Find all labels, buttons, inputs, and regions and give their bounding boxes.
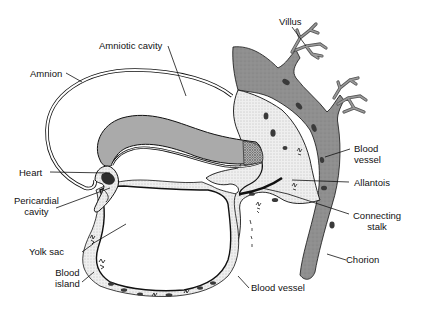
- label-villus: Villus: [279, 16, 302, 27]
- label-pericardial-line1: Pericardial: [14, 195, 59, 206]
- label-blood-island-line2: island: [55, 278, 80, 289]
- label-blood-vessel-chorion-line2: vessel: [354, 154, 381, 165]
- label-chorion: Chorion: [346, 254, 379, 265]
- label-pericardial-cavity: Pericardial cavity: [14, 195, 59, 217]
- label-yolk-sac: Yolk sac: [29, 246, 64, 257]
- label-blood-vessel-yolk-sac: Blood vessel: [251, 282, 305, 293]
- label-pericardial-line2: cavity: [24, 206, 48, 217]
- label-amniotic-cavity: Amniotic cavity: [99, 40, 162, 51]
- label-blood-vessel-chorion: Blood vessel: [354, 143, 381, 165]
- label-allantois: Allantois: [354, 177, 390, 188]
- label-blood-island-line1: Blood: [55, 267, 79, 278]
- label-blood-vessel-chorion-line1: Blood: [354, 143, 378, 154]
- label-connecting-stalk: Connecting stalk: [353, 210, 401, 232]
- label-connecting-line2: stalk: [367, 221, 387, 232]
- label-amnion: Amnion: [30, 68, 62, 79]
- label-connecting-line1: Connecting: [353, 210, 401, 221]
- label-heart: Heart: [19, 167, 42, 178]
- label-blood-island: Blood island: [55, 267, 80, 289]
